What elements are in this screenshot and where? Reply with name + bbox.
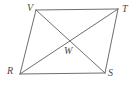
diagonal-rt [20,9,118,74]
vertex-label-s: S [108,68,113,78]
vertex-label-t: T [122,4,128,14]
figure-canvas [0,0,137,85]
vertex-label-w: W [64,46,72,56]
edge-sr [20,73,105,74]
edge-vt [36,9,118,10]
geometry-figure: V T R S W [0,0,137,85]
edge-ts [105,9,118,73]
vertex-label-v: V [27,3,33,13]
parallelogram-diagonals [20,9,118,74]
diagonal-vs [36,10,105,73]
vertex-label-r: R [7,66,13,76]
